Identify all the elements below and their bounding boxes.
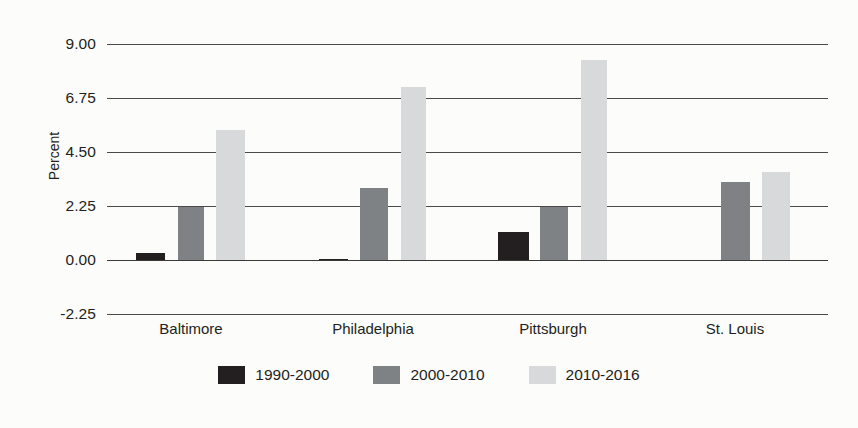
x-label-pittsburgh: Pittsburgh — [519, 320, 587, 337]
y-axis-title: Percent — [46, 96, 62, 216]
bar-st-louis-2000-2010 — [721, 182, 750, 260]
x-label-baltimore: Baltimore — [159, 320, 222, 337]
legend-swatch-icon — [218, 366, 245, 384]
bar-baltimore-2000-2010 — [178, 207, 204, 260]
legend-label: 2010-2016 — [566, 366, 640, 384]
x-axis-labels: Baltimore Philadelphia Pittsburgh St. Lo… — [107, 316, 828, 346]
legend-item-2000-2010: 2000-2010 — [373, 366, 484, 384]
legend-item-1990-2000: 1990-2000 — [218, 366, 329, 384]
legend-swatch-icon — [529, 366, 556, 384]
bar-pittsburgh-1990-2000 — [498, 232, 529, 260]
gridline-zero — [107, 260, 828, 261]
legend-item-2010-2016: 2010-2016 — [529, 366, 640, 384]
bar-baltimore-1990-2000 — [136, 253, 165, 260]
legend-label: 1990-2000 — [255, 366, 329, 384]
gridline-neg225 — [107, 314, 828, 315]
bar-philadelphia-2010-2016 — [401, 87, 426, 260]
chart-page: 9.00 6.75 4.50 2.25 0.00 -2.25 Percent — [0, 0, 858, 428]
bar-philadelphia-2000-2010 — [360, 188, 388, 260]
bar-philadelphia-1990-2000 — [319, 259, 348, 260]
legend-swatch-icon — [373, 366, 400, 384]
bar-st-louis-2010-2016 — [762, 172, 790, 260]
x-label-st-louis: St. Louis — [706, 320, 764, 337]
bars-layer — [107, 44, 828, 260]
y-tick-label: 9.00 — [0, 35, 96, 53]
bar-baltimore-2010-2016 — [216, 130, 245, 260]
y-tick-label: 0.00 — [0, 251, 96, 269]
bar-pittsburgh-2010-2016 — [581, 60, 607, 260]
chart-legend: 1990-2000 2000-2010 2010-2016 — [0, 366, 858, 384]
bar-pittsburgh-2000-2010 — [540, 207, 568, 260]
x-label-philadelphia: Philadelphia — [332, 320, 414, 337]
y-tick-label: -2.25 — [0, 305, 96, 323]
legend-label: 2000-2010 — [410, 366, 484, 384]
